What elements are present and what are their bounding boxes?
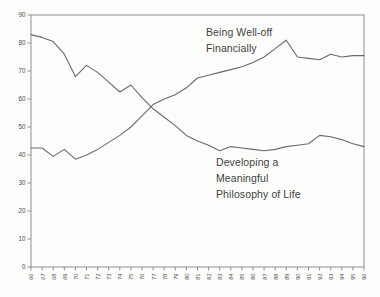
x-axis-tick-label: 83 — [217, 274, 223, 280]
x-axis-tick-label: 81 — [195, 274, 201, 280]
y-axis-tick-label: 90 — [18, 11, 26, 18]
y-axis-tick-label: 50 — [18, 123, 26, 130]
x-axis-tick-label: 78 — [162, 274, 168, 280]
y-axis-tick-label: 40 — [18, 151, 26, 158]
x-axis-tick-label: 92 — [317, 274, 323, 280]
y-axis-tick-label: 60 — [18, 95, 26, 102]
x-axis-tick-label: 66 — [28, 274, 34, 280]
y-axis-tick-label: 30 — [18, 179, 26, 186]
x-axis-tick-label: 73 — [106, 274, 112, 280]
x-axis-tick-label: 88 — [273, 274, 279, 280]
y-axis-tick-label: 20 — [18, 207, 26, 214]
x-axis-tick-label: 77 — [151, 274, 157, 280]
series-line-philosophy — [31, 35, 364, 151]
line-chart-canvas: 0102030405060708090666768697071727374757… — [0, 0, 380, 297]
x-axis-tick-label: 71 — [84, 274, 90, 280]
x-axis-tick-label: 89 — [284, 274, 290, 280]
x-axis-tick-label: 96 — [361, 274, 367, 280]
x-axis-tick-label: 79 — [173, 274, 179, 280]
y-axis-tick-label: 0 — [22, 263, 26, 270]
x-axis-tick-label: 91 — [306, 274, 312, 280]
x-axis-tick-label: 94 — [339, 274, 345, 280]
x-axis-tick-label: 69 — [62, 274, 68, 280]
x-axis-tick-label: 68 — [51, 274, 57, 280]
x-axis-tick-label: 76 — [139, 274, 145, 280]
x-axis-tick-label: 75 — [128, 274, 134, 280]
x-axis-tick-label: 82 — [206, 274, 212, 280]
x-axis-tick-label: 86 — [250, 274, 256, 280]
x-axis-tick-label: 67 — [40, 274, 46, 280]
x-axis-tick-label: 87 — [262, 274, 268, 280]
annotation-financial-series-label: Being Well-off Financially — [206, 25, 272, 57]
x-axis-tick-label: 74 — [117, 274, 123, 280]
x-axis-tick-label: 70 — [73, 274, 79, 280]
y-axis-tick-label: 80 — [18, 39, 26, 46]
y-axis-tick-label: 10 — [18, 235, 26, 242]
x-axis-tick-label: 85 — [239, 274, 245, 280]
x-axis-tick-label: 72 — [95, 274, 101, 280]
y-axis-tick-label: 70 — [18, 67, 26, 74]
x-axis-tick-label: 95 — [350, 274, 356, 280]
x-axis-tick-label: 80 — [184, 274, 190, 280]
annotation-philosophy-series-label: Developing a Meaningful Philosophy of Li… — [216, 155, 301, 202]
x-axis-tick-label: 84 — [228, 274, 234, 280]
x-axis-tick-label: 90 — [295, 274, 301, 280]
x-axis-tick-label: 93 — [328, 274, 334, 280]
